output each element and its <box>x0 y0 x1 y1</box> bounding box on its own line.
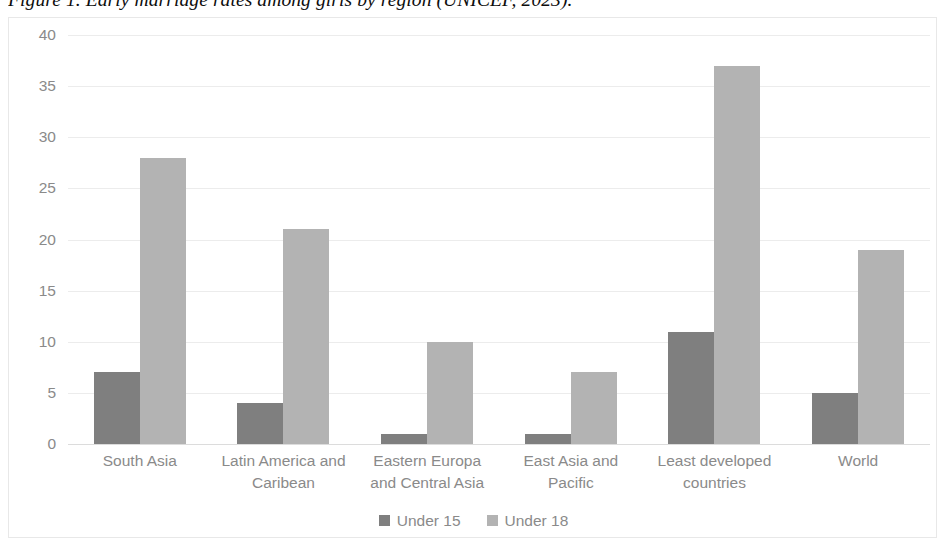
bar-group <box>355 35 499 444</box>
x-axis-tick-label-line: Pacific <box>499 472 643 494</box>
legend-swatch-icon <box>487 515 498 526</box>
bar[interactable] <box>858 250 904 444</box>
bars-layer <box>68 35 930 444</box>
x-axis-tick-label-line: and Central Asia <box>355 472 499 494</box>
x-axis-tick-label: South Asia <box>68 450 212 472</box>
y-axis-tick-label: 15 <box>39 282 56 300</box>
figure-caption: Figure 1. Early marriage rates among gir… <box>8 0 938 11</box>
legend-item[interactable]: Under 18 <box>487 513 569 529</box>
plot-area: 0510152025303540 <box>68 35 930 444</box>
y-axis-tick-label: 40 <box>39 26 56 44</box>
bar-group <box>499 35 643 444</box>
bar[interactable] <box>668 332 714 444</box>
bar-group <box>68 35 212 444</box>
x-axis-tick-label-line: Least developed <box>643 450 787 472</box>
y-axis-tick-label: 0 <box>47 435 56 453</box>
x-axis-tick-label-line: Eastern Europa <box>355 450 499 472</box>
y-axis-tick-label: 35 <box>39 77 56 95</box>
x-axis-tick-label-line: countries <box>643 472 787 494</box>
legend-label: Under 18 <box>505 513 569 529</box>
legend-item[interactable]: Under 15 <box>379 513 461 529</box>
gridline <box>68 444 930 445</box>
bar[interactable] <box>283 229 329 444</box>
x-axis-tick-label-line: World <box>786 450 930 472</box>
bar[interactable] <box>237 403 283 444</box>
bar-group <box>643 35 787 444</box>
bar-group <box>212 35 356 444</box>
bar-group <box>786 35 930 444</box>
x-axis-tick-label: East Asia andPacific <box>499 450 643 494</box>
bar[interactable] <box>94 372 140 444</box>
bar[interactable] <box>812 393 858 444</box>
bar[interactable] <box>525 434 571 444</box>
y-axis-tick-label: 5 <box>47 384 56 402</box>
legend-label: Under 15 <box>397 513 461 529</box>
x-axis-tick-label-line: Latin America and <box>212 450 356 472</box>
y-axis-tick-label: 20 <box>39 231 56 249</box>
x-axis-tick-label: Least developedcountries <box>643 450 787 494</box>
x-axis-tick-label-line: Caribean <box>212 472 356 494</box>
chart-legend: Under 15Under 18 <box>9 513 938 529</box>
legend-swatch-icon <box>379 515 390 526</box>
bar[interactable] <box>427 342 473 444</box>
x-axis-tick-label-line: East Asia and <box>499 450 643 472</box>
bar[interactable] <box>571 372 617 444</box>
bar[interactable] <box>381 434 427 444</box>
x-axis-tick-label-line: South Asia <box>68 450 212 472</box>
y-axis-tick-label: 10 <box>39 333 56 351</box>
x-axis-category-labels: South AsiaLatin America andCaribeanEaste… <box>68 450 930 508</box>
chart-container: 0510152025303540 South AsiaLatin America… <box>8 17 937 538</box>
x-axis-tick-label: World <box>786 450 930 472</box>
y-axis-tick-label: 25 <box>39 179 56 197</box>
bar[interactable] <box>140 158 186 444</box>
y-axis-tick-label: 30 <box>39 128 56 146</box>
x-axis-tick-label: Latin America andCaribean <box>212 450 356 494</box>
bar[interactable] <box>714 66 760 444</box>
x-axis-tick-label: Eastern Europaand Central Asia <box>355 450 499 494</box>
